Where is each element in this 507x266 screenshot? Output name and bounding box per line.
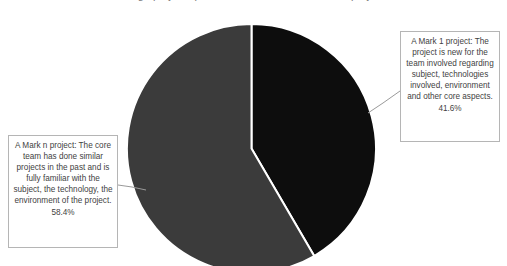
pie-chart-svg [127,24,376,266]
callout-mark-1-text: A Mark 1 project: The project is new for… [406,37,493,101]
chart-screenshot: Rough project split between Mark 1 and M… [0,0,507,266]
callout-mark-1[interactable]: A Mark 1 project: The project is new for… [400,31,500,142]
callout-mark-1-percent: 41.6% [405,103,495,114]
pie-chart [127,24,376,266]
callout-mark-n-percent: 58.4% [13,207,113,218]
callout-mark-n[interactable]: A Mark n project: The core team has done… [8,135,118,248]
chart-title: Rough project split between Mark 1 and M… [0,0,507,1]
callout-mark-n-text: A Mark n project: The core team has done… [13,141,112,205]
